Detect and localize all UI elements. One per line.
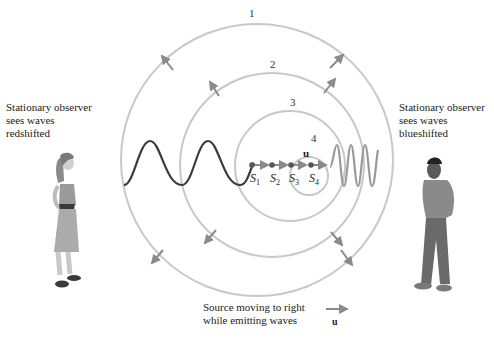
wavefront-label-2: 2 — [270, 58, 276, 70]
source-position-4 — [308, 162, 314, 168]
wavefront-label-3: 3 — [290, 96, 296, 108]
propagation-arrows — [152, 55, 352, 265]
doppler-diagram: 1 2 3 4 u S1 S2 S3 S4 u — [0, 0, 494, 342]
source-position-3 — [288, 162, 294, 168]
caption-velocity-label: u — [332, 316, 338, 327]
source-label-1: S1 — [250, 171, 260, 187]
wavefront-label-1: 1 — [249, 7, 255, 19]
source-label-2: S2 — [270, 171, 280, 187]
wavefront-label-4: 4 — [311, 132, 317, 144]
source-label-3: S3 — [289, 171, 299, 187]
source-label-4: S4 — [309, 171, 319, 187]
source-position-1 — [249, 162, 255, 168]
blueshifted-wave — [330, 145, 378, 186]
source-position-2 — [269, 162, 275, 168]
man-observer-figure — [414, 158, 454, 292]
arrow-icon — [330, 55, 343, 68]
arrow-icon — [331, 232, 342, 245]
arrow-icon — [324, 79, 335, 93]
woman-observer-figure — [54, 153, 81, 288]
velocity-label: u — [303, 147, 309, 159]
